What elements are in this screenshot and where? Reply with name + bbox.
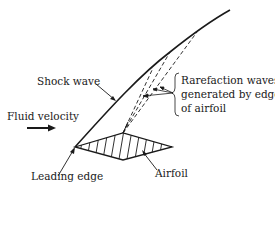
- airfoil-shape: [75, 130, 172, 165]
- fluid-velocity-arrow-icon: [27, 125, 56, 132]
- rarefaction-label-line3: of airfoil: [181, 102, 226, 114]
- fluid-velocity-label: Fluid velocity: [7, 110, 79, 122]
- airfoil-label: Airfoil: [155, 167, 188, 179]
- leading-edge-label: Leading edge: [31, 170, 103, 182]
- rarefaction-label-line1: Rarefaction waves: [181, 74, 275, 86]
- shock-wave-label: Shock wave: [37, 75, 100, 87]
- rarefaction-pointer-arrows: [143, 87, 173, 98]
- rarefaction-label-line2: generated by edge: [181, 88, 275, 100]
- rarefaction-bracket: [172, 73, 179, 116]
